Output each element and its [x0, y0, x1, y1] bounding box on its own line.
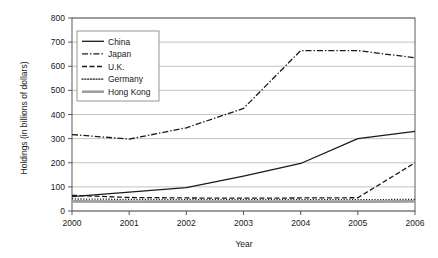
y-tick-label: 200: [51, 158, 65, 168]
x-tick-label: 2001: [120, 218, 139, 228]
x-tick-label: 2002: [177, 218, 196, 228]
x-axis-ticks: 2000200120022003200420052006: [63, 211, 425, 228]
chart-legend: ChinaJapanU.K.GermanyHong Kong: [77, 31, 159, 101]
y-tick-label: 100: [51, 182, 65, 192]
y-tick-label: 400: [51, 110, 65, 120]
y-tick-label: 300: [51, 134, 65, 144]
x-tick-label: 2000: [63, 218, 82, 228]
y-tick-label: 700: [51, 37, 65, 47]
legend-label-china: China: [108, 37, 130, 47]
chart-canvas: 0100200300400500600700800 20002001200220…: [0, 0, 438, 258]
y-axis-ticks: 0100200300400500600700800: [51, 13, 72, 216]
y-tick-label: 600: [51, 61, 65, 71]
legend-label-japan: Japan: [108, 49, 131, 59]
y-axis-title: Holdings (in billions of dollars): [19, 61, 29, 174]
legend-label-u-k: U.K.: [108, 62, 125, 72]
y-tick-label: 800: [51, 13, 65, 23]
x-tick-label: 2006: [406, 218, 425, 228]
legend-label-germany: Germany: [108, 74, 144, 84]
x-tick-label: 2003: [234, 218, 253, 228]
y-tick-label: 0: [60, 206, 65, 216]
legend-label-hong-kong: Hong Kong: [108, 87, 151, 97]
x-tick-label: 2005: [348, 218, 367, 228]
line-chart: 0100200300400500600700800 20002001200220…: [0, 0, 438, 258]
y-tick-label: 500: [51, 85, 65, 95]
x-axis-title: Year: [235, 239, 252, 249]
series-line-germany: [72, 199, 415, 200]
x-tick-label: 2004: [291, 218, 310, 228]
